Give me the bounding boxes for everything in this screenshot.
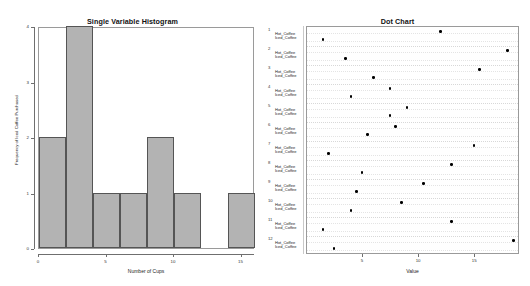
dotchart-group-number: 11 bbox=[268, 217, 272, 222]
histogram-x-axis-line bbox=[38, 254, 254, 255]
dotchart-row-gridline bbox=[307, 90, 518, 91]
dotchart-row-gridline bbox=[307, 98, 518, 99]
histogram-panel: Single Variable Histogram 01234 051015 N… bbox=[0, 0, 265, 286]
histogram-bar bbox=[93, 193, 120, 249]
dotchart-data-point bbox=[422, 182, 425, 185]
dotchart-data-point bbox=[322, 38, 325, 41]
dotchart-group-separator bbox=[307, 141, 518, 142]
dotchart-row-gridline bbox=[307, 166, 518, 167]
dotchart-row-gridline bbox=[307, 155, 518, 156]
dotchart-row-gridline bbox=[307, 71, 518, 72]
histogram-y-axis-label: Frequency of Iced Coffee Purchased bbox=[14, 19, 19, 241]
histogram-y-tick bbox=[31, 27, 34, 28]
dotchart-row-gridline bbox=[307, 109, 518, 110]
dotchart-row-label: Iced_Coffee bbox=[275, 55, 297, 59]
histogram-x-tick-label: 0 bbox=[30, 259, 46, 264]
dotchart-x-tick bbox=[362, 254, 363, 257]
histogram-bar bbox=[174, 193, 201, 249]
dotchart-data-point bbox=[400, 201, 403, 204]
dotchart-row-gridline bbox=[307, 185, 518, 186]
dotchart-row-gridline bbox=[307, 212, 518, 213]
dotchart-data-point bbox=[327, 152, 330, 155]
dotchart-row-gridline bbox=[307, 136, 518, 137]
dotchart-data-point bbox=[344, 57, 347, 60]
dotchart-row-label: Iced_Coffee bbox=[275, 36, 297, 40]
histogram-y-tick bbox=[31, 138, 34, 139]
histogram-x-tick bbox=[106, 254, 107, 257]
histogram-bar bbox=[39, 137, 66, 248]
dotchart-row-label: Iced_Coffee bbox=[275, 131, 297, 135]
dotchart-group-separator bbox=[307, 217, 518, 218]
histogram-x-tick-label: 5 bbox=[98, 259, 114, 264]
histogram-bar bbox=[147, 137, 174, 248]
dotchart-row-label: Iced_Coffee bbox=[275, 226, 297, 230]
dotchart-data-point bbox=[355, 190, 358, 193]
histogram-x-tick bbox=[173, 254, 174, 257]
dotchart-plot-area bbox=[306, 26, 519, 254]
dotchart-group-separator bbox=[307, 84, 518, 85]
dotchart-row-gridline bbox=[307, 204, 518, 205]
dotchart-data-point bbox=[439, 30, 442, 33]
dotchart-row-gridline bbox=[307, 250, 518, 251]
dotchart-data-point bbox=[350, 95, 353, 98]
dotchart-row-gridline bbox=[307, 174, 518, 175]
dotchart-row-gridline bbox=[307, 117, 518, 118]
dotchart-row-label: Iced_Coffee bbox=[275, 93, 297, 97]
histogram-bar bbox=[228, 193, 255, 249]
histogram-plot-area bbox=[38, 27, 254, 249]
histogram-bar bbox=[120, 193, 147, 249]
histogram-y-axis-line bbox=[34, 27, 35, 249]
dotchart-group-number: 3 bbox=[268, 65, 270, 70]
dotchart-row-gridline bbox=[307, 79, 518, 80]
histogram-y-tick bbox=[31, 194, 34, 195]
dotchart-row-gridline bbox=[307, 231, 518, 232]
dotchart-data-point bbox=[450, 220, 453, 223]
dotchart-row-gridline bbox=[307, 52, 518, 53]
histogram-y-tick bbox=[31, 249, 34, 250]
dotchart-x-tick-label: 15 bbox=[466, 258, 482, 263]
dotchart-row-gridline bbox=[307, 193, 518, 194]
dotchart-data-point bbox=[450, 163, 453, 166]
dotchart-group-separator bbox=[307, 179, 518, 180]
dotchart-group-number: 8 bbox=[268, 160, 270, 165]
dotchart-x-tick bbox=[474, 254, 475, 257]
dotchart-x-tick-label: 10 bbox=[410, 258, 426, 263]
dotchart-group-number: 9 bbox=[268, 179, 270, 184]
dotchart-data-point bbox=[394, 125, 397, 128]
histogram-y-tick bbox=[31, 83, 34, 84]
dotchart-data-point bbox=[322, 228, 325, 231]
dotchart-group-number: 4 bbox=[268, 84, 270, 89]
dotchart-group-separator bbox=[307, 46, 518, 47]
dotchart-row-gridline bbox=[307, 223, 518, 224]
histogram-x-tick bbox=[38, 254, 39, 257]
dotchart-data-point bbox=[350, 209, 353, 212]
dotchart-row-label: Iced_Coffee bbox=[275, 112, 297, 116]
histogram-bar bbox=[66, 26, 93, 248]
dotchart-group-separator bbox=[307, 160, 518, 161]
dotchart-x-tick-label: 5 bbox=[354, 258, 370, 263]
dotchart-group-separator bbox=[307, 65, 518, 66]
dotchart-group-number: 6 bbox=[268, 122, 270, 127]
dotchart-row-label: Iced_Coffee bbox=[275, 188, 297, 192]
histogram-x-tick bbox=[241, 254, 242, 257]
dotchart-group-number: 1 bbox=[268, 27, 270, 32]
dotchart-row-label: Iced_Coffee bbox=[275, 74, 297, 78]
dotchart-x-axis-label: Value bbox=[306, 268, 519, 274]
histogram-y-tick-label: 0 bbox=[14, 246, 29, 251]
dotchart-group-separator bbox=[307, 103, 518, 104]
dotchart-row-gridline bbox=[307, 33, 518, 34]
dotchart-row-gridline bbox=[307, 128, 518, 129]
dotchart-row-gridline bbox=[307, 60, 518, 61]
dotchart-row-label: Iced_Coffee bbox=[275, 169, 297, 173]
dotchart-data-point bbox=[512, 239, 515, 242]
dotchart-group-number: 12 bbox=[268, 236, 273, 241]
dotchart-label-divider bbox=[303, 26, 304, 254]
dotchart-data-point bbox=[366, 133, 369, 136]
dotchart-data-point bbox=[372, 76, 375, 79]
dotchart-group-number: 7 bbox=[268, 141, 270, 146]
dotchart-row-label: Iced_Coffee bbox=[275, 245, 297, 249]
dotchart-group-separator bbox=[307, 122, 518, 123]
dotchart-group-separator bbox=[307, 236, 518, 237]
histogram-x-axis-label: Number of Cups bbox=[38, 268, 254, 274]
dotchart-group-separator bbox=[307, 198, 518, 199]
